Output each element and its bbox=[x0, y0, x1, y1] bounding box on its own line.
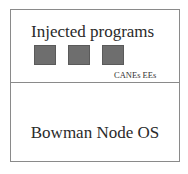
layer-divider bbox=[11, 82, 179, 83]
injected-program-block-2 bbox=[68, 45, 90, 65]
canes-ees-label: CANEs EEs bbox=[114, 70, 156, 80]
bowman-node-os-label: Bowman Node OS bbox=[11, 123, 179, 143]
injected-programs-title: Injected programs bbox=[31, 22, 154, 42]
injected-program-block-3 bbox=[102, 45, 124, 65]
node-stack-box: Injected programs CANEs EEs Bowman Node … bbox=[10, 9, 180, 162]
injected-program-block-1 bbox=[34, 45, 56, 65]
